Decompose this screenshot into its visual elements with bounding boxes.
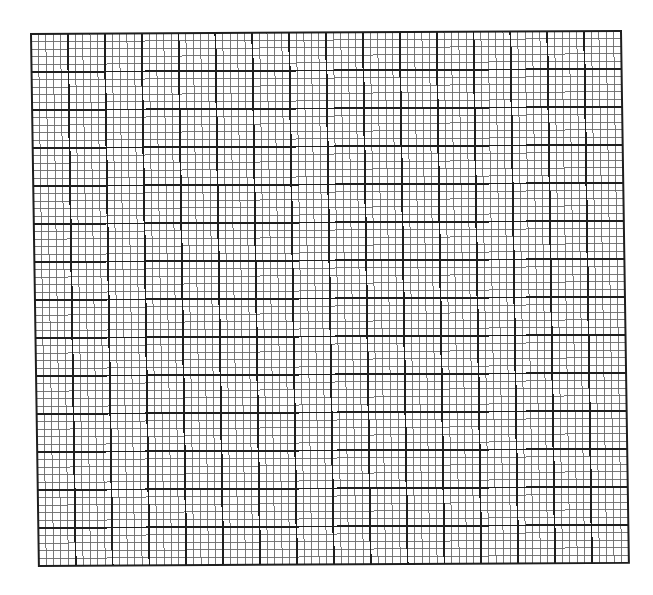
grid-lines [31, 31, 629, 566]
graph-paper-grid [31, 31, 629, 566]
page-canvas [0, 0, 653, 595]
